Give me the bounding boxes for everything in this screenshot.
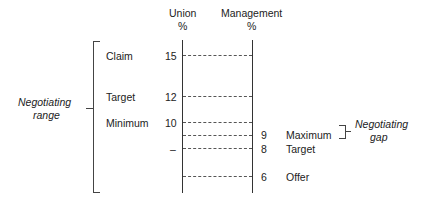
management-label-target: Target [286, 143, 315, 155]
range-bracket-line [93, 41, 94, 193]
dashed-line-12 [183, 96, 252, 97]
range-bracket-tick [86, 108, 93, 109]
management-value-offer: 6 [261, 171, 267, 183]
union-label-minimum: Minimum [106, 117, 149, 129]
union-label-target: Target [106, 91, 135, 103]
dashed-line-9 [183, 135, 252, 136]
union-value-minimum: 10 [165, 117, 177, 129]
union-axis [182, 40, 183, 193]
gap-label-line2: gap [370, 131, 388, 143]
gap-label-line1: Negotiating [355, 118, 408, 130]
union-value-target: 12 [165, 91, 177, 103]
management-header: Management [221, 7, 282, 19]
gap-bracket-top [339, 125, 345, 126]
dashed-line-10 [183, 122, 252, 123]
gap-bracket-line [345, 125, 346, 139]
gap-bracket-bottom [339, 138, 346, 139]
union-value-claim: 15 [165, 50, 177, 62]
management-unit: % [247, 20, 256, 32]
management-value-maximum: 9 [261, 129, 267, 141]
dashed-line-15 [183, 55, 252, 56]
range-bracket-top [93, 41, 100, 42]
management-label-maximum: Maximum [286, 129, 332, 141]
dashed-line-8 [183, 148, 252, 149]
union-label-claim: Claim [106, 50, 133, 62]
range-label-line1: Negotiating [18, 96, 71, 108]
union-header: Union [169, 7, 196, 19]
union-unit: % [178, 20, 187, 32]
gap-bracket-tick [345, 131, 351, 132]
union-dash-mark: – [170, 143, 176, 155]
management-axis [252, 40, 253, 193]
dashed-line-6 [183, 176, 252, 177]
management-value-target: 8 [261, 143, 267, 155]
range-bracket-bottom [93, 192, 100, 193]
range-label-line2: range [33, 109, 60, 121]
management-label-offer: Offer [286, 171, 309, 183]
